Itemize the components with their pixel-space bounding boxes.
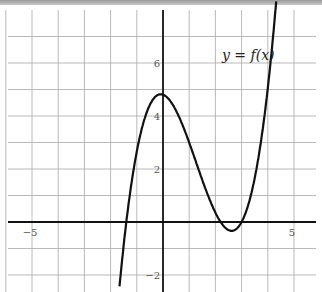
chart: −55−2246 y = f(x) bbox=[0, 0, 322, 292]
y-tick-label: −2 bbox=[145, 270, 160, 281]
y-tick-label: 2 bbox=[154, 164, 160, 175]
plot-area: −55−2246 y = f(x) bbox=[0, 0, 322, 292]
function-curve bbox=[120, 1, 277, 286]
tick-labels: −55−2246 bbox=[23, 58, 296, 281]
curve-label: y = f(x) bbox=[221, 47, 275, 63]
x-tick-label: 5 bbox=[289, 227, 295, 238]
y-tick-label: 6 bbox=[154, 58, 160, 69]
y-tick-label: 4 bbox=[154, 111, 160, 122]
x-tick-label: −5 bbox=[23, 227, 38, 238]
